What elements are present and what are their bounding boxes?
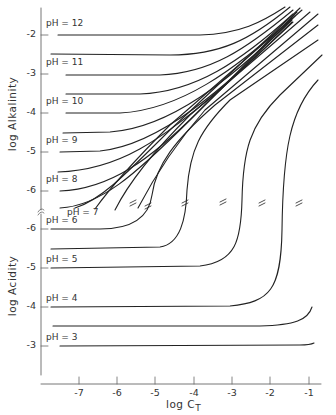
x-tick-5: -5: [143, 387, 167, 398]
label-ph8: pH = 8: [46, 174, 77, 184]
x-axis-label: log CT: [166, 398, 201, 413]
x-tick-7: -7: [67, 387, 91, 398]
x-tick-2: -2: [258, 387, 282, 398]
curve-ph3: [60, 343, 314, 346]
label-ph9: pH = 9: [46, 135, 77, 145]
curve-ph4-5: [51, 80, 318, 307]
label-ph4: pH = 4: [46, 293, 77, 303]
break-mark-5: [259, 200, 265, 206]
x-axis-label-main: log C: [166, 398, 195, 410]
curve-ph11-5: [51, 7, 290, 55]
curve-ph5-5: [51, 40, 318, 249]
x-tick-1: -1: [297, 387, 321, 398]
curve-ph12: [58, 7, 285, 35]
x-tick-3: -3: [220, 387, 244, 398]
y-axis-label-alkalinity: log Alkalinity: [6, 74, 18, 154]
x-tick-4: -4: [182, 387, 206, 398]
curve-ph6: [51, 25, 318, 229]
label-ph3: pH = 3: [46, 332, 77, 342]
y-tick-upper-2: -2: [14, 28, 36, 39]
curve-ph7-upper: [75, 8, 300, 208]
break-mark-6: [296, 200, 302, 206]
break-mark-3: [182, 200, 188, 206]
curve-ph4-0: [53, 307, 312, 326]
y-tick-upper-6: -6: [14, 184, 36, 195]
curve-ph7-b: [115, 12, 310, 210]
break-mark-1: [130, 200, 136, 206]
x-tick-6: -6: [105, 387, 129, 398]
label-ph10: pH = 10: [46, 96, 83, 106]
x-axis-label-sub: T: [195, 403, 201, 413]
y-tick-lower-6: -6: [14, 222, 36, 233]
label-ph11: pH = 11: [46, 57, 83, 67]
label-ph5: pH = 5: [46, 254, 77, 264]
label-ph6: pH = 6: [46, 215, 77, 225]
label-ph12: pH = 12: [46, 18, 83, 28]
break-mark-4: [220, 199, 226, 205]
y-axis-label-acidity: log Acidity: [6, 254, 18, 318]
y-tick-lower-3: -3: [14, 339, 36, 350]
curve-ph6-5: [138, 14, 318, 208]
